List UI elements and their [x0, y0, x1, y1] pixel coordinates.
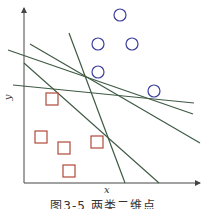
class-circle-points	[92, 9, 160, 97]
square-point	[35, 131, 47, 143]
separating-line	[13, 85, 194, 103]
square-point	[58, 142, 70, 154]
square-point	[46, 93, 58, 105]
separating-line	[24, 63, 159, 183]
separating-line	[8, 50, 193, 114]
square-point	[91, 136, 103, 148]
circle-point	[92, 66, 104, 78]
y-axis-label: y	[2, 95, 13, 101]
x-axis-label: x	[104, 184, 110, 195]
circle-point	[92, 38, 104, 50]
circle-point	[114, 9, 126, 21]
figure-caption: 图3-5 两类二维点	[0, 196, 206, 209]
separating-line	[69, 33, 125, 183]
circle-point	[148, 85, 160, 97]
square-point	[63, 165, 75, 177]
figure-canvas	[0, 0, 206, 209]
circle-point	[126, 38, 138, 50]
class-square-points	[35, 93, 103, 177]
separating-lines	[8, 33, 200, 183]
